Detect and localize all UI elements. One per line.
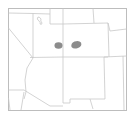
map-svg [0, 0, 131, 115]
highlight-region-west [55, 42, 63, 49]
map-container [0, 0, 131, 115]
